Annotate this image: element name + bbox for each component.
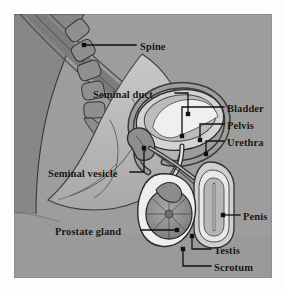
label-pelvis: Pelvis [227,120,254,131]
label-prostate-gland: Prostate gland [55,226,121,237]
penis-shaft [194,162,234,248]
leader-dot-urethra [204,152,208,156]
label-scrotum: Scrotum [214,262,253,273]
leader-dot-pelvis [198,138,202,142]
leader-dot-bladder [180,134,184,138]
leader-dot-prostate-gland [175,228,179,232]
label-seminal-vesicle: Seminal vesicle [48,168,117,179]
label-spine: Spine [140,41,166,52]
leader-dot-seminal-duct [186,112,190,116]
label-testis: Testis [214,245,240,256]
leader-dot-testis [190,234,194,238]
leader-dot-seminal-vesicle [142,146,146,150]
label-penis: Penis [243,211,267,222]
label-urethra: Urethra [227,137,264,148]
label-seminal-duct: Seminal duct [93,89,153,100]
label-bladder: Bladder [227,103,264,114]
leader-dot-spine [82,43,86,47]
leader-dot-scrotum [181,247,185,251]
anatomy-figure: SpineSeminal ductBladderPelvisUrethraSem… [0,0,285,292]
prostate-gland-organ [161,200,185,227]
leader-dot-penis [221,213,225,217]
